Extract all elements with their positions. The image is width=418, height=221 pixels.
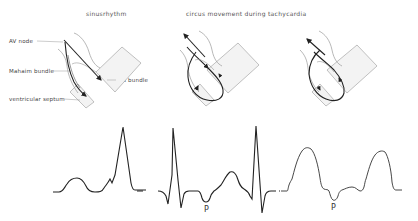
ecg-trace-sinus — [53, 127, 146, 192]
ecg-trace-tachycardia-wide — [281, 148, 402, 201]
heart-diagram-sinus — [37, 33, 141, 108]
p-wave-label-1: P — [204, 205, 209, 214]
heart-diagram-circus-2 — [300, 31, 377, 106]
ecg-trace-tachycardia-narrow — [137, 126, 280, 213]
diagram-svg — [0, 0, 418, 221]
heart-diagram-circus-1 — [180, 31, 259, 106]
p-wave-label-2: P — [331, 203, 336, 212]
diagram-canvas: sinusrhythm circus movement during tachy… — [0, 0, 418, 221]
